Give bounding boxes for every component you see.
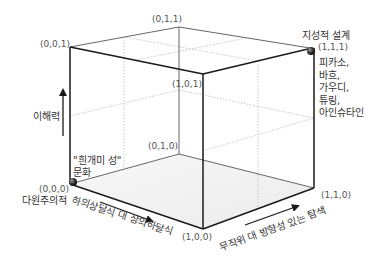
example-item: 아인슈타인 bbox=[319, 107, 364, 120]
top-ball bbox=[307, 47, 315, 55]
origin-title-line2: 문화 bbox=[73, 167, 91, 180]
origin-below-label: 다원주의적 bbox=[22, 195, 67, 208]
vertex-label-001: (0,0,1) bbox=[40, 40, 70, 49]
origin-title-line1: "흰개미 성" bbox=[73, 155, 121, 168]
vertex-label-111: (1,1,1) bbox=[318, 43, 348, 52]
example-item: 튜링, bbox=[319, 95, 364, 108]
vertex-label-100: (1,0,0) bbox=[182, 233, 212, 242]
top-point-title: 지성적 설계 bbox=[302, 30, 350, 43]
example-item: 가우디, bbox=[319, 82, 364, 95]
vertex-label-010: (0,1,0) bbox=[148, 142, 178, 151]
top-point-examples: 피카소, 바흐, 가우디, 튜링, 아인슈타인 bbox=[319, 57, 364, 120]
vertex-label-101: (1,0,1) bbox=[172, 80, 202, 89]
vertical-axis-label: 이해력 bbox=[33, 111, 60, 124]
vertex-label-000: (0,0,0) bbox=[39, 185, 69, 194]
vertex-label-011: (0,1,1) bbox=[152, 15, 182, 24]
vertex-label-110: (1,1,0) bbox=[321, 191, 351, 200]
example-item: 바흐, bbox=[319, 70, 364, 83]
example-item: 피카소, bbox=[319, 57, 364, 70]
